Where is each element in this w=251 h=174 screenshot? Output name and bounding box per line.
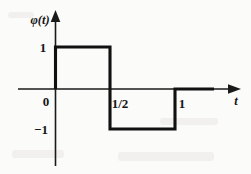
haar-wavelet-figure: 1 −1 0 1/2 1 φ(t) t bbox=[0, 0, 251, 174]
origin-label: 0 bbox=[43, 94, 50, 109]
y-tick-label-one: 1 bbox=[40, 40, 47, 55]
x-axis-label: t bbox=[234, 94, 238, 108]
plot-canvas: 1 −1 0 1/2 1 φ(t) t bbox=[0, 0, 251, 174]
y-axis-arrowhead bbox=[51, 10, 61, 22]
haar-wavelet-curve bbox=[56, 47, 215, 129]
x-tick-label-one: 1 bbox=[179, 96, 186, 111]
scan-artifacts bbox=[8, 12, 218, 161]
x-axis-arrowhead bbox=[228, 84, 241, 94]
x-tick-label-half: 1/2 bbox=[112, 96, 129, 111]
y-tick-label-negative-one: −1 bbox=[34, 122, 48, 137]
y-axis-label: φ(t) bbox=[30, 13, 49, 27]
